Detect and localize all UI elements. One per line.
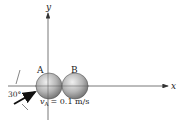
angle-tick-lower [22,104,28,110]
collision-diagram: x y A B 30° vA= 0.1 m/s [0,0,182,128]
x-axis-label: x [171,81,176,91]
ball-b-label: B [71,65,78,75]
angle-label: 30° [8,90,22,99]
y-axis-label: y [45,2,52,12]
angle-tick-upper [16,70,20,84]
ball-a-label: A [36,65,44,75]
